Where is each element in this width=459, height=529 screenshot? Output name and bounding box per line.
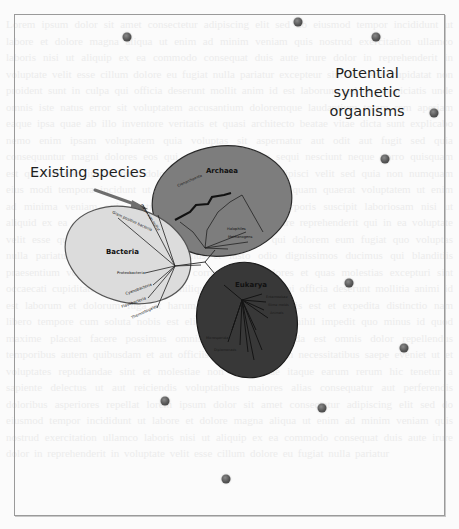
svg-text:Microsporidia: Microsporidia [206, 336, 229, 340]
svg-text:Halophiles: Halophiles [227, 227, 246, 231]
synthetic-organism-dot [294, 18, 303, 27]
eukarya-domain: Eukarya Microsporidia Diplomonads Entamo… [186, 253, 308, 387]
svg-text:Diplomonads: Diplomonads [214, 348, 236, 352]
eukarya-label: Eukarya [235, 281, 267, 289]
synthetic-organism-dot [222, 475, 231, 484]
synthetic-organism-dot [400, 344, 409, 353]
synthetic-organism-dot [345, 279, 354, 288]
svg-text:Slime molds: Slime molds [268, 303, 289, 307]
synthetic-organism-dot [123, 33, 132, 42]
synthetic-organism-dot [381, 155, 390, 164]
synthetic-organism-dot [161, 397, 170, 406]
synthetic-organism-dot [430, 109, 439, 118]
synthetic-organisms-label: Potential synthetic organisms [300, 64, 434, 121]
svg-text:Thermotogales: Thermotogales [129, 303, 158, 320]
svg-text:Animals: Animals [270, 311, 284, 315]
svg-text:Entamoebae: Entamoebae [266, 295, 287, 299]
synthetic-label-line1: Potential synthetic [300, 64, 434, 102]
existing-species-label: Existing species [30, 163, 146, 182]
synthetic-label-line2: organisms [300, 102, 434, 121]
bacteria-label: Bacteria [106, 248, 139, 256]
svg-text:Methanogens: Methanogens [228, 235, 252, 239]
archaea-label: Archaea [206, 167, 238, 175]
synthetic-organism-dot [318, 404, 327, 413]
synthetic-organism-dot [372, 33, 381, 42]
svg-text:Proteobacteria: Proteobacteria [117, 270, 145, 275]
